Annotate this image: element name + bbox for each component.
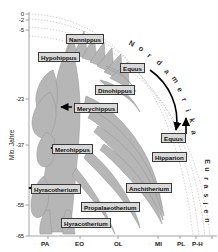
x-tick-ol: OL xyxy=(114,240,123,247)
taxon-label-nannippus: Nannippus xyxy=(66,34,104,44)
taxon-label-hipparion: Hipparion xyxy=(152,152,187,162)
x-tick-mi: MI xyxy=(155,240,162,247)
region-letter: E xyxy=(204,159,211,164)
region-letter: a xyxy=(203,185,210,189)
horse-phylogeny-figure: 0 -2 -5 -23 -37 -55 -65 Mio. Jahre PA EO… xyxy=(0,0,218,252)
region-letter: r xyxy=(203,177,210,180)
y-tick-55: -55 xyxy=(8,202,24,208)
taxon-label-equus-na: Equus xyxy=(120,63,145,73)
region-letter: e xyxy=(203,210,210,214)
taxon-label-anchitherium: Anchitherium xyxy=(126,183,172,193)
diagram-canvas xyxy=(0,0,218,252)
region-letter: s xyxy=(203,193,210,197)
y-axis-ticks xyxy=(26,14,30,236)
y-tick-23: -23 xyxy=(8,96,24,102)
taxon-label-merychippus: Merychippus xyxy=(74,103,118,113)
x-tick-ph: P-H xyxy=(192,240,203,247)
y-axis-title: Mio. Jahre xyxy=(8,130,15,160)
y-tick-65: -65 xyxy=(8,233,24,239)
region-letter: n xyxy=(204,218,211,222)
x-tick-eo: EO xyxy=(75,240,84,247)
x-tick-pl: PL xyxy=(177,240,185,247)
region-letter: u xyxy=(204,168,211,172)
x-tick-pa: PA xyxy=(41,240,49,247)
taxon-label-equus-eu: Equus xyxy=(161,133,186,143)
taxon-label-propalaeotherium: Propalaeotherium xyxy=(81,202,140,212)
taxon-label-dinohippus: Dinohippus xyxy=(95,85,135,95)
taxon-label-hyracotherium-mid: Hyracotherium xyxy=(31,184,81,194)
taxon-label-hypohippus: Hypohippus xyxy=(38,52,80,62)
taxon-label-hyracotherium-base: Hyracotherium xyxy=(61,218,111,228)
region-letter: i xyxy=(202,203,209,205)
y-tick-5: -5 xyxy=(10,27,24,33)
taxon-label-merohippus: Merohippus xyxy=(52,144,93,154)
region-letter: a xyxy=(190,129,199,134)
y-tick-2: -2 xyxy=(10,17,24,23)
